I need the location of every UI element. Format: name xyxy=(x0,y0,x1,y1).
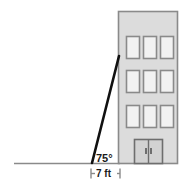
window xyxy=(144,71,157,93)
door-handle-left xyxy=(145,148,147,154)
door-handle-right xyxy=(150,148,152,154)
window xyxy=(127,71,140,93)
window xyxy=(127,106,140,128)
window xyxy=(127,37,140,59)
window-grid xyxy=(127,37,174,128)
window xyxy=(144,37,157,59)
entrance-doors xyxy=(135,140,163,164)
angle-label: 75° xyxy=(96,152,113,164)
building xyxy=(119,12,178,164)
geometry-figure: 75° 7 ft xyxy=(0,0,187,190)
figure-canvas: 75° 7 ft xyxy=(0,0,187,190)
distance-label: 7 ft xyxy=(96,168,112,179)
window xyxy=(161,71,174,93)
dimension-line: 7 ft xyxy=(91,167,120,180)
ladder xyxy=(92,56,119,163)
window xyxy=(161,106,174,128)
window xyxy=(161,37,174,59)
window xyxy=(144,106,157,128)
